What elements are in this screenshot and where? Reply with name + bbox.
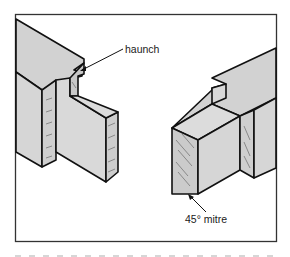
haunch-label: haunch	[125, 43, 159, 55]
figure-caption-cropped	[15, 250, 277, 257]
mitre-label: 45° mitre	[185, 213, 227, 225]
joint-illustration	[0, 0, 290, 257]
